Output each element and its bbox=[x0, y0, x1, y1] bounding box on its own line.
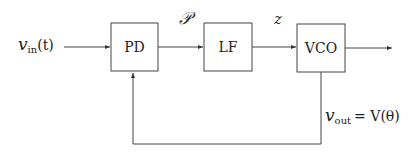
feedback-signal-label: vout= V(θ) bbox=[325, 105, 400, 126]
pll-diagram: PD LF VCO vin(t) 𝒫 z vout= V(θ) bbox=[0, 0, 418, 152]
input-signal-label: vin(t) bbox=[18, 34, 54, 55]
pd-label: PD bbox=[124, 39, 145, 55]
pd-output-label: 𝒫 bbox=[179, 8, 196, 28]
vco-block: VCO bbox=[297, 24, 345, 72]
pd-block: PD bbox=[111, 23, 158, 71]
lf-label: LF bbox=[218, 39, 237, 55]
feedback-path bbox=[133, 72, 321, 144]
vco-label: VCO bbox=[304, 40, 337, 56]
lf-output-label: z bbox=[273, 11, 282, 27]
lf-block: LF bbox=[204, 23, 252, 71]
